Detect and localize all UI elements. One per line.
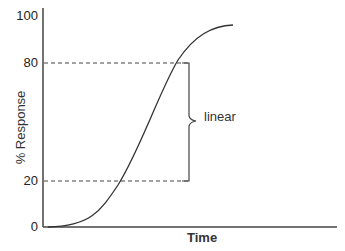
tick-80: 80 bbox=[0, 55, 38, 70]
response-curve bbox=[48, 25, 233, 227]
y-axis-label: % Response bbox=[13, 78, 28, 178]
linear-annotation: linear bbox=[204, 109, 236, 124]
chart-canvas bbox=[0, 0, 345, 251]
linear-brace-icon bbox=[182, 63, 196, 181]
tick-100: 100 bbox=[0, 8, 38, 23]
tick-0: 0 bbox=[0, 219, 38, 234]
x-axis-label: Time bbox=[187, 230, 217, 245]
